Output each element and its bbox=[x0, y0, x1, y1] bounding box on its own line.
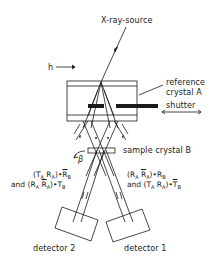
shutter-label: shutter bbox=[166, 101, 196, 110]
x-ray-source-label: X-ray-source bbox=[101, 16, 152, 25]
reference-pointer bbox=[139, 85, 163, 95]
detector-1 bbox=[106, 209, 150, 242]
beam-arrow-icon bbox=[115, 47, 118, 52]
formula-left-line2: and (RA RA)•TB bbox=[11, 180, 65, 192]
reference-crystal-label-1: reference bbox=[166, 78, 205, 87]
sample-crystal-label: sample crystal B bbox=[123, 146, 191, 155]
detector-2 bbox=[55, 207, 98, 241]
diagram-canvas bbox=[0, 0, 216, 257]
sample-crystal-b bbox=[88, 148, 115, 153]
beta-label: β bbox=[78, 155, 83, 164]
reference-crystal-label-2: crystal A bbox=[166, 88, 202, 97]
detector-1-label: detector 1 bbox=[124, 244, 166, 253]
shutter-bar-right bbox=[116, 104, 158, 108]
h-label: h bbox=[48, 63, 53, 72]
formula-right-line2: and (TA RA)•TB bbox=[127, 180, 181, 192]
incident-beam bbox=[101, 27, 126, 82]
detector-2-label: detector 2 bbox=[33, 244, 75, 253]
